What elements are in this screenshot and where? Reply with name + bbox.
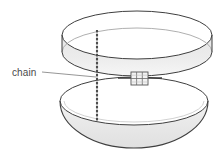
upper-half-shell — [62, 11, 212, 76]
diagram-canvas — [0, 0, 222, 159]
chain-label-leader-line — [42, 72, 96, 77]
chain-label: chain — [12, 68, 36, 78]
upper-inner-back-arc — [62, 28, 212, 52]
lower-half-shell — [60, 77, 208, 148]
sphere-halves-with-chain-diagram: chain — [0, 0, 222, 159]
upper-shell-shading — [62, 35, 212, 76]
